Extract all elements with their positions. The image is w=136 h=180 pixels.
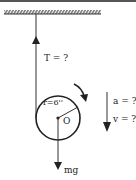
acceleration-label: a = ? <box>113 97 136 106</box>
tension-label: T = ? <box>44 54 68 63</box>
motion-arrow-icon <box>103 122 111 132</box>
ceiling <box>4 10 101 14</box>
tension-arrow-icon <box>32 36 40 44</box>
center-label: O <box>63 117 70 126</box>
weight-label: mg <box>64 166 78 175</box>
rotation-arrow-icon <box>74 84 88 102</box>
pulley-diagram <box>0 0 136 180</box>
weight-arrow-icon <box>54 162 62 170</box>
velocity-label: v = ? <box>113 115 136 124</box>
radius-label: r=6'' <box>43 99 63 107</box>
